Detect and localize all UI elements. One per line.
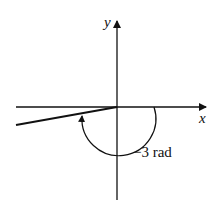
- angle-diagram: [0, 0, 221, 217]
- y-axis-label: y: [104, 14, 111, 31]
- terminal-ray: [16, 107, 117, 125]
- angle-label: −3 rad: [133, 144, 172, 161]
- x-axis-label: x: [199, 110, 206, 127]
